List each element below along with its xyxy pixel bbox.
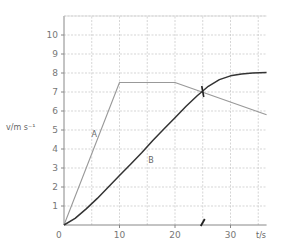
origin-label: 0 — [56, 230, 62, 240]
grid — [64, 16, 267, 225]
svg-text:30: 30 — [225, 230, 237, 240]
velocity-time-chart: 12345678910102030 v/m s⁻¹ t/s 0 A B — [0, 0, 281, 248]
series-b-label: B — [148, 156, 154, 165]
svg-text:4: 4 — [52, 144, 58, 154]
svg-text:9: 9 — [52, 49, 58, 59]
y-axis-label: v/m s⁻¹ — [6, 123, 35, 132]
svg-text:8: 8 — [52, 68, 58, 78]
markers — [201, 86, 205, 226]
svg-text:2: 2 — [52, 182, 58, 192]
svg-text:5: 5 — [52, 125, 58, 135]
svg-text:1: 1 — [52, 201, 58, 211]
svg-text:10: 10 — [47, 30, 59, 40]
svg-text:10: 10 — [114, 230, 126, 240]
tick-labels: 12345678910102030 — [47, 30, 237, 240]
svg-text:20: 20 — [169, 230, 181, 240]
svg-text:6: 6 — [52, 106, 58, 116]
x-axis-label: t/s — [256, 231, 266, 240]
svg-text:7: 7 — [52, 87, 58, 97]
svg-text:3: 3 — [52, 163, 58, 173]
series-a-label: A — [92, 130, 98, 139]
